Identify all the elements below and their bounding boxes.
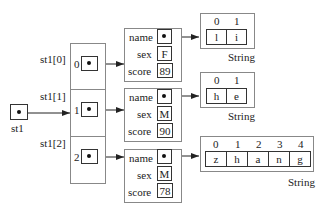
pointer-dot-icon <box>17 110 21 114</box>
char-cell: h <box>226 151 248 167</box>
sex-value: F <box>157 46 172 61</box>
array-index: 1 <box>74 104 80 116</box>
field-label-score: score <box>128 186 151 198</box>
field-label-score: score <box>128 125 151 137</box>
array-element-label: st1[1] <box>40 90 66 102</box>
char-index: 2 <box>256 138 262 150</box>
pointer-dot-icon <box>162 94 166 98</box>
pointer-dot-icon <box>87 154 91 158</box>
char-index: 0 <box>213 138 219 150</box>
sex-value: M <box>157 106 172 121</box>
array-element-pointer <box>81 149 98 164</box>
array-divider <box>70 89 106 90</box>
field-label-name: name <box>129 152 153 164</box>
field-label-sex: sex <box>137 169 152 181</box>
char-index: 1 <box>234 15 240 27</box>
score-value: 90 <box>157 123 173 138</box>
array-element-label: st1[0] <box>40 53 66 65</box>
score-value: 89 <box>157 63 173 78</box>
char-cell: e <box>226 88 247 104</box>
pointer-dot-icon <box>87 61 91 65</box>
char-cell: a <box>247 151 269 167</box>
string-type-label: String <box>288 176 315 188</box>
array-index: 2 <box>74 151 80 163</box>
field-label-name: name <box>129 31 153 43</box>
name-pointer <box>157 29 172 44</box>
sex-value: M <box>157 166 172 181</box>
char-cell: z <box>205 151 227 167</box>
char-index: 3 <box>277 138 283 150</box>
array-index: 0 <box>74 58 80 70</box>
array-element-pointer <box>81 56 98 71</box>
string-type-label: String <box>228 51 255 63</box>
char-cell: i <box>226 29 247 45</box>
char-index: 4 <box>298 138 304 150</box>
array-element-label: st1[2] <box>40 137 66 149</box>
char-index: 1 <box>235 138 241 150</box>
char-cell: l <box>206 29 227 45</box>
char-cell: h <box>206 88 227 104</box>
string-type-label: String <box>228 110 255 122</box>
pointer-dot-icon <box>162 34 166 38</box>
char-cell: n <box>268 151 290 167</box>
score-value: 78 <box>157 183 173 198</box>
name-pointer <box>157 149 172 164</box>
pointer-dot-icon <box>87 107 91 111</box>
field-label-score: score <box>128 65 151 77</box>
st1-pointer-box <box>10 104 28 120</box>
name-pointer <box>157 89 172 104</box>
array-element-pointer <box>81 102 98 117</box>
st1-label: st1 <box>11 122 24 134</box>
char-cell: g <box>289 151 311 167</box>
field-label-sex: sex <box>137 48 152 60</box>
pointer-dot-icon <box>162 154 166 158</box>
char-index: 0 <box>214 15 220 27</box>
field-label-sex: sex <box>137 108 152 120</box>
char-index: 0 <box>214 74 220 86</box>
array-divider <box>70 136 106 137</box>
field-label-name: name <box>129 91 153 103</box>
char-index: 1 <box>234 74 240 86</box>
